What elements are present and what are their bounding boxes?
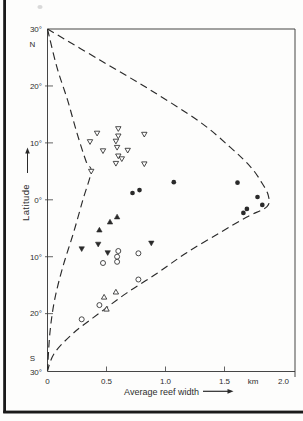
- data-point-open-down-triangle: [89, 169, 94, 174]
- y-axis-title: Latitude: [20, 184, 31, 221]
- x-tick-label: 1.0: [160, 377, 172, 386]
- x-tick-label: 0: [45, 377, 50, 386]
- envelope-left-bulge: [48, 29, 92, 371]
- data-point-open-down-triangle: [114, 145, 119, 150]
- y-tick-label: 30°: [30, 368, 42, 377]
- data-point-open-circle: [115, 259, 120, 264]
- data-point-filled-circle: [235, 180, 240, 185]
- data-point-filled-circle: [130, 191, 135, 196]
- data-point-filled-down-triangle: [96, 242, 101, 247]
- data-point-open-circle: [136, 277, 141, 282]
- data-point-open-circle: [136, 251, 141, 256]
- scan-artifact-mark: [37, 5, 42, 9]
- data-point-open-circle: [101, 261, 106, 266]
- data-point-filled-circle: [245, 207, 250, 212]
- data-point-open-down-triangle: [113, 139, 118, 144]
- hemisphere-label-north: N: [30, 40, 36, 49]
- y-axis-ticks: 30°20°10°0°10°20°30°: [30, 25, 53, 377]
- data-point-open-down-triangle: [94, 131, 99, 136]
- data-point-filled-down-triangle: [149, 241, 154, 246]
- data-point-filled-down-triangle: [105, 251, 110, 256]
- page-edge-left: [3, 0, 6, 413]
- data-point-filled-circle: [241, 211, 246, 216]
- data-point-filled-circle: [137, 188, 142, 193]
- data-point-filled-up-triangle: [97, 227, 102, 232]
- data-point-open-down-triangle: [87, 140, 92, 145]
- data-point-open-down-triangle: [125, 148, 130, 153]
- y-tick-label: 0°: [34, 196, 42, 205]
- y-tick-label: 20°: [30, 82, 42, 91]
- x-axis-title: Average reef width: [124, 387, 199, 397]
- data-point-open-down-triangle: [113, 161, 118, 166]
- y-tick-label: 10°: [30, 253, 42, 262]
- up-arrow-icon: [25, 148, 30, 174]
- data-point-open-down-triangle: [119, 157, 124, 162]
- data-point-open-circle: [79, 317, 84, 322]
- data-point-filled-circle: [260, 203, 265, 208]
- y-tick-label: 30°: [30, 25, 42, 34]
- y-tick-label: 10°: [30, 139, 42, 148]
- data-point-open-up-triangle: [101, 294, 106, 299]
- data-point-open-down-triangle: [116, 134, 121, 139]
- scanned-figure-page: 30°20°10°0°10°20°30° 00.51.01.52.0 N S L…: [0, 0, 303, 421]
- data-point-open-down-triangle: [116, 127, 121, 132]
- data-point-filled-up-triangle: [107, 219, 112, 224]
- hemisphere-label-south: S: [30, 354, 35, 363]
- data-point-open-down-triangle: [142, 162, 147, 167]
- data-point-open-down-triangle: [100, 149, 105, 154]
- data-points: [79, 127, 265, 322]
- reef-width-latitude-chart: 30°20°10°0°10°20°30° 00.51.01.52.0 N S L…: [0, 0, 303, 421]
- plot-frame: [48, 29, 296, 377]
- x-tick-label: 1.5: [219, 377, 231, 386]
- x-unit-label: km: [248, 377, 259, 386]
- data-point-filled-down-triangle: [79, 247, 84, 252]
- right-arrow-icon: [203, 389, 234, 394]
- data-point-open-circle: [116, 249, 121, 254]
- y-tick-label: 20°: [30, 309, 42, 318]
- data-point-filled-up-triangle: [114, 214, 119, 219]
- data-point-filled-circle: [255, 195, 260, 200]
- data-point-open-down-triangle: [142, 132, 147, 137]
- x-tick-label: 2.0: [278, 377, 290, 386]
- page-edge-bottom: [3, 411, 303, 414]
- data-point-open-circle: [115, 254, 120, 259]
- x-tick-label: 0.5: [101, 377, 113, 386]
- data-point-open-up-triangle: [113, 289, 118, 294]
- data-point-filled-circle: [171, 180, 176, 185]
- data-point-open-circle: [97, 303, 102, 308]
